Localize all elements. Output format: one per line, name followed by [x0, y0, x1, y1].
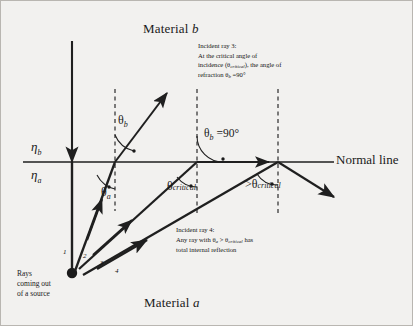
ray3-annotation-line1: Incident ray 3:	[198, 41, 281, 51]
material-a-symbol: a	[193, 295, 200, 310]
theta-greater-than-critical-label: >θcritical	[245, 177, 281, 191]
ray4-line2-c: has	[243, 236, 253, 243]
theta-b-equals-90-label: θb =90°	[204, 127, 239, 143]
ray3-line3-a: incidence (θ	[198, 61, 230, 68]
material-b-symbol: b	[192, 21, 199, 36]
ray3-line4-b: =90°	[231, 71, 246, 78]
material-a-label: Material a	[144, 295, 200, 310]
ray4-line2-b: > θ	[218, 236, 228, 243]
theta-gt-critical-subscript: critical	[258, 181, 281, 190]
ray3-line4-a: refraction θ	[198, 71, 228, 78]
theta-b-90-arc-dot	[221, 157, 224, 160]
theta-a-label: θa	[101, 185, 111, 202]
ray4-annotation-line1: Incident ray 4:	[176, 225, 253, 235]
eta-a-label: ηa	[31, 167, 41, 185]
ray4-totally-reflected	[278, 162, 334, 197]
theta-b-label: θb	[118, 113, 128, 130]
ray3-annotation-line2: At the critical angle of	[198, 51, 281, 61]
ray3-line3-subscript: critical	[230, 64, 244, 69]
theta-critical-label: θcritical	[167, 179, 196, 193]
ray4-line2-a: Any ray with θ	[176, 236, 216, 243]
eta-b-subscript: b	[37, 148, 41, 157]
eta-a-subscript: a	[37, 176, 41, 185]
eta-b-label: ηb	[31, 139, 41, 157]
optics-diagram-canvas: Material b Material a Normal line ηb ηa …	[0, 0, 413, 326]
ray2-direction-arrow	[87, 199, 102, 240]
theta-critical-subscript: critical	[173, 183, 196, 192]
source-caption-line3: of a source	[17, 289, 51, 299]
normal-line-label: Normal line	[336, 152, 398, 167]
ray4-annotation-line2: Any ray with θa > θcritical has	[176, 235, 253, 245]
theta-b-arc-dot	[132, 149, 135, 152]
ray3-line3-b: ), the angle of	[245, 61, 282, 68]
theta-a-subscript: a	[107, 192, 111, 201]
annotation-incident-ray-3: Incident ray 3: At the critical angle of…	[198, 41, 281, 81]
ray3-annotation-line3: incidence (θcritical), the angle of	[198, 60, 281, 70]
source-caption-line1: Rays	[17, 269, 51, 279]
ray-number-3: 3	[100, 259, 104, 267]
ray-number-4: 4	[115, 267, 119, 275]
material-b-label: Material b	[143, 21, 199, 36]
ray3-annotation-line4: refraction θb =90°	[198, 70, 281, 80]
annotation-incident-ray-4: Incident ray 4: Any ray with θa > θcriti…	[176, 225, 253, 254]
ray4-line2-subscript-b: critical	[228, 239, 242, 244]
ray-number-1: 1	[63, 248, 67, 256]
theta-b-90-value: =90°	[214, 127, 239, 139]
ray4-annotation-line3: total internal reflection	[176, 245, 253, 255]
greater-than-symbol: >	[245, 177, 252, 191]
source-caption-line2: coming out	[17, 279, 51, 289]
source-caption: Rays coming out of a source	[17, 269, 51, 299]
ray-number-2: 2	[83, 252, 87, 260]
theta-b-subscript: b	[124, 120, 128, 129]
